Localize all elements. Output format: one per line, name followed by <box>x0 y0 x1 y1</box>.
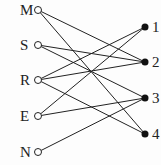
node-label-2: 2 <box>152 54 160 70</box>
edge-M-2 <box>38 10 145 62</box>
node-4-filled-circle <box>142 131 149 138</box>
node-label-M: M <box>20 2 33 18</box>
node-R-open-circle <box>35 77 42 84</box>
node-label-E: E <box>20 108 29 124</box>
node-1-filled-circle <box>142 24 149 31</box>
node-S-open-circle <box>35 42 42 49</box>
node-label-4: 4 <box>152 126 160 142</box>
node-label-N: N <box>20 144 31 160</box>
edge-N-3 <box>38 98 145 152</box>
node-label-S: S <box>20 37 28 53</box>
node-E-open-circle <box>35 113 42 120</box>
node-label-R: R <box>20 72 30 88</box>
node-2-filled-circle <box>142 59 149 66</box>
node-N-open-circle <box>35 149 42 156</box>
bipartite-graph-diagram: MSREN1234 <box>0 0 161 165</box>
node-M-open-circle <box>35 7 42 14</box>
node-label-3: 3 <box>152 90 160 106</box>
node-3-filled-circle <box>142 95 149 102</box>
node-label-1: 1 <box>152 19 160 35</box>
edge-E-3 <box>38 98 145 116</box>
graph-svg: MSREN1234 <box>0 0 161 165</box>
